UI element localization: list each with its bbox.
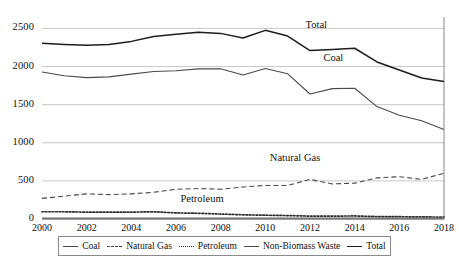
dotted-line-icon [179, 243, 194, 250]
x-tick-2002: 2002 [65, 222, 109, 233]
y-tick-2000: 2000 [0, 60, 34, 71]
annotation-petroleum: Petroleum [180, 193, 223, 204]
series-line-petroleum [42, 212, 444, 217]
x-tick-2008: 2008 [199, 222, 243, 233]
gridlines [42, 28, 444, 219]
y-tick-1000: 1000 [0, 136, 34, 147]
legend-item-label: Non-Biomass Waste [263, 241, 340, 251]
x-tick-2018: 2018 [422, 222, 459, 233]
x-tick-2004: 2004 [109, 222, 153, 233]
legend: CoalNatural GasPetroleumNon-Biomass Wast… [58, 236, 391, 256]
series-lines [42, 30, 444, 218]
annotation-coal: Coal [323, 52, 343, 63]
legend-item-total[interactable]: Total [347, 241, 385, 251]
dashed-line-icon [107, 243, 122, 250]
x-tick-2006: 2006 [154, 222, 198, 233]
x-tick-2014: 2014 [333, 222, 377, 233]
x-tick-2016: 2016 [377, 222, 421, 233]
legend-item-petroleum[interactable]: Petroleum [179, 241, 237, 251]
legend-item-natural-gas[interactable]: Natural Gas [107, 241, 172, 251]
legend-item-label: Total [366, 241, 385, 251]
x-tick-2010: 2010 [243, 222, 287, 233]
legend-item-coal[interactable]: Coal [63, 241, 100, 251]
annotation-natural-gas: Natural Gas [270, 152, 320, 163]
series-line-coal [42, 68, 444, 129]
legend-item-label: Petroleum [198, 241, 237, 251]
series-line-total [42, 30, 444, 81]
legend-item-label: Natural Gas [126, 241, 172, 251]
annotation-total: Total [306, 19, 327, 30]
legend-item-label: Coal [82, 241, 100, 251]
x-tick-2012: 2012 [288, 222, 332, 233]
y-tick-2500: 2500 [0, 21, 34, 32]
series-line-natural-gas [42, 173, 444, 198]
solid-dark-line-icon [347, 243, 362, 250]
axis-lines [42, 17, 444, 219]
y-tick-1500: 1500 [0, 98, 34, 109]
solid-mid-line-icon [63, 243, 78, 250]
y-tick-500: 500 [0, 174, 34, 185]
x-tick-2000: 2000 [20, 222, 64, 233]
solid-mid-line-icon [244, 243, 259, 250]
legend-item-non-biomass-waste[interactable]: Non-Biomass Waste [244, 241, 340, 251]
